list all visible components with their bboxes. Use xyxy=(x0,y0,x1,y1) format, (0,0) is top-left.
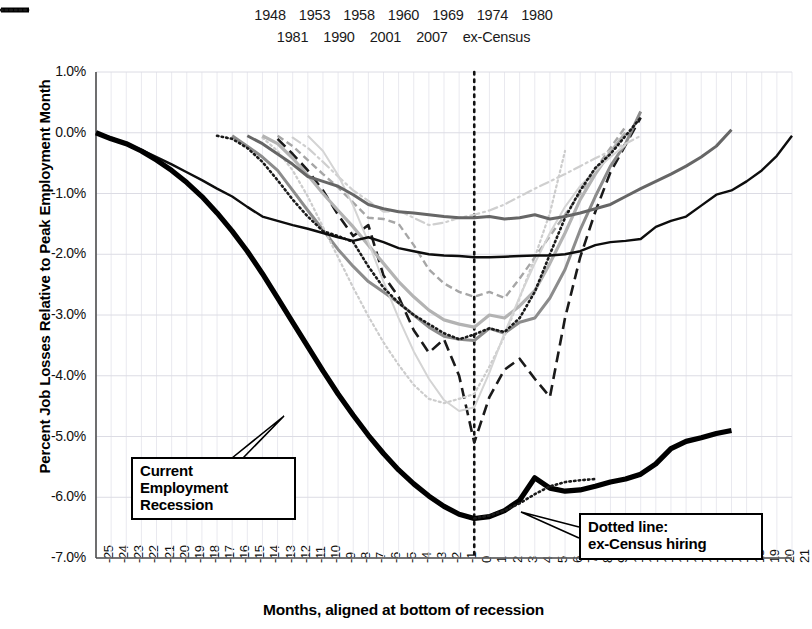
annotation-line: ex-Census hiring xyxy=(588,536,755,553)
annotation-line: Employment xyxy=(140,480,288,497)
series-line-1980 xyxy=(308,136,626,411)
annotation-line: Recession xyxy=(140,497,288,514)
annotation-current-recession: Current Employment Recession xyxy=(131,457,296,520)
annotation-line: Current xyxy=(140,463,288,480)
annotation-line: Dotted line: xyxy=(588,519,755,536)
annotation-ex-census: Dotted line: ex-Census hiring xyxy=(579,513,763,560)
